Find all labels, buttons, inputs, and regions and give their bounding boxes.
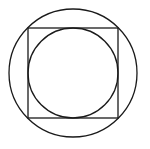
geometry-figure [0, 0, 150, 149]
inner-circle [28, 28, 118, 118]
diagram-canvas [0, 0, 150, 149]
